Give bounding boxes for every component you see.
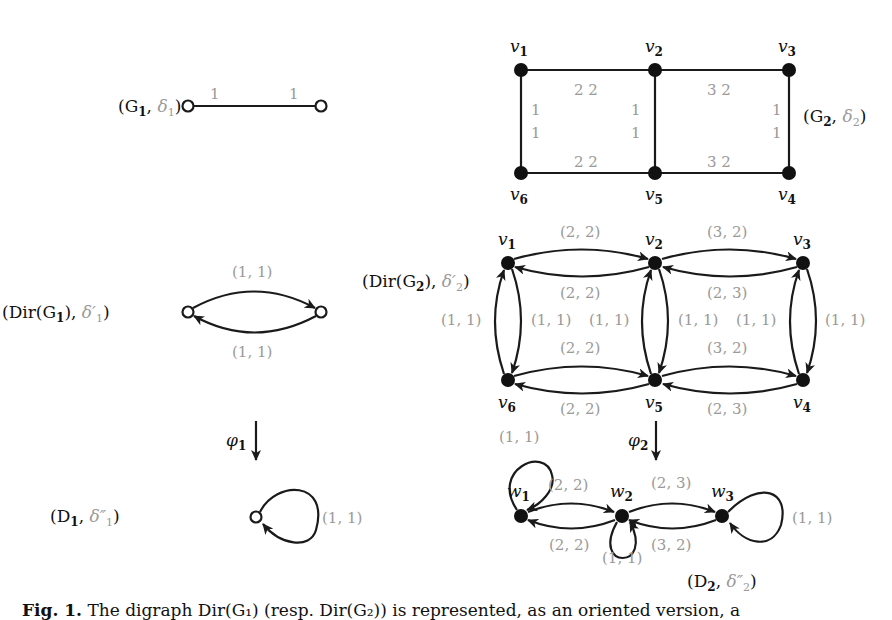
d2-label-w2: w2 xyxy=(610,481,633,504)
d2-weight-w1-w2: (2, 2) xyxy=(548,476,588,494)
dir-g2-label-v5: v5 xyxy=(645,392,663,415)
dir-g2-arc-v3-v4 xyxy=(807,269,816,373)
dir-g2-arc-v5-v6 xyxy=(515,384,649,394)
d2-vertex-w1 xyxy=(514,509,528,523)
dir-g2-arc-v6-v1 xyxy=(495,270,504,374)
g2-label-v1: v1 xyxy=(510,36,528,59)
dir-g2-weight-v5-v2: (1, 1) xyxy=(589,311,629,329)
d2-weight-w2-w3: (2, 3) xyxy=(651,474,691,492)
g2-label-v5: v5 xyxy=(645,184,663,207)
dir-g2-weight-v3-v4: (1, 1) xyxy=(825,311,865,329)
dir-g2-weight-v1-v2: (2, 2) xyxy=(560,223,600,241)
dir-g2-weight-v6-v1: (1, 1) xyxy=(441,311,481,329)
g2-weight-v2-v5-a: 1 xyxy=(631,101,641,119)
dir-g2-arc-v1-v6 xyxy=(512,269,521,373)
graph-dir-g1: (Dir(G1), δ′1) (1, 1) (1, 1) xyxy=(2,263,327,361)
g2-weight-v2-v3: 3 2 xyxy=(707,81,731,99)
dir-g2-arc-v3-v2 xyxy=(663,267,797,277)
g1-weight-left: 1 xyxy=(210,85,220,103)
dir-g2-arc-v4-v5 xyxy=(663,384,797,394)
phi2-label: φ2 xyxy=(628,430,648,453)
dir-g2-arc-v2-v5 xyxy=(659,269,668,373)
dir-g2-arc-v2-v3 xyxy=(662,250,796,260)
dir-g2-arc-v2-v1 xyxy=(515,267,649,277)
dir-g1-weight-top: (1, 1) xyxy=(232,263,272,281)
dir-g2-weight-v6-v5: (2, 2) xyxy=(560,339,600,357)
g1-weight-right: 1 xyxy=(289,85,299,103)
g2-weight-v2-v5-b: 1 xyxy=(631,124,641,142)
dir-g2-weight-v4-v5: (2, 3) xyxy=(707,400,747,418)
dir-g2-vertex-v5 xyxy=(648,373,662,387)
dir-g1-weight-bottom: (1, 1) xyxy=(232,343,272,361)
g2-weight-v1-v2: 2 2 xyxy=(574,81,598,99)
g2-weight-v1-v6-b: 1 xyxy=(531,124,541,142)
g1-vertex-right xyxy=(316,101,327,112)
d2-label: (D2, δ″2) xyxy=(687,571,757,594)
d2-vertex-w2 xyxy=(615,509,629,523)
g2-vertex-v4 xyxy=(782,166,796,180)
phi1-label: φ1 xyxy=(226,430,246,453)
dir-g2-arc-v5-v4 xyxy=(662,367,796,377)
dir-g2-weight-v2-v3: (3, 2) xyxy=(707,223,747,241)
dir-g2-arc-v5-v2 xyxy=(642,270,651,374)
caption-prefix: Fig. 1. xyxy=(22,600,82,620)
g2-label-v2: v2 xyxy=(645,36,663,59)
figure-canvas: (G1, δ1) 1 1 v1 v2 v3 v4 v5 v6 2 2 3 2 2… xyxy=(0,0,892,620)
dir-g2-vertex-v1 xyxy=(501,256,515,270)
dir-g2-arc-v6-v5 xyxy=(514,367,648,377)
dir-g2-weight-v1-v6: (1, 1) xyxy=(531,311,571,329)
d2-arc-w3-w2 xyxy=(629,520,716,529)
graph-dir-g2: (Dir(G2), δ′2) v1 v2 v3 v4 v5 v6 (2, 2) xyxy=(362,223,865,418)
dir-g1-arc-bottom xyxy=(194,316,316,333)
dir-g2-vertex-v4 xyxy=(796,373,810,387)
d2-weight-w2-loop: (1, 1) xyxy=(602,549,642,567)
dir-g1-vertex-right xyxy=(316,307,327,318)
g2-weight-v6-v5: 2 2 xyxy=(574,153,598,171)
g2-vertex-v1 xyxy=(514,63,528,77)
dir-g2-arc-v1-v2 xyxy=(514,250,648,260)
d2-weight-w2-w1: (2, 2) xyxy=(549,536,589,554)
g2-vertex-v5 xyxy=(648,166,662,180)
d2-arc-w1-w2 xyxy=(528,504,614,513)
dir-g1-arc-top xyxy=(193,292,315,309)
d1-vertex xyxy=(251,512,262,523)
dir-g2-weight-v5-v4: (3, 2) xyxy=(707,339,747,357)
d1-loop xyxy=(260,490,318,543)
d2-loop-w3 xyxy=(728,493,783,542)
dir-g2-arc-v4-v3 xyxy=(790,270,799,374)
g1-label: (G1, δ1) xyxy=(118,96,181,119)
graph-g1: (G1, δ1) 1 1 xyxy=(118,85,327,119)
g2-vertex-v6 xyxy=(514,166,528,180)
g2-label-v4: v4 xyxy=(778,184,796,207)
g2-label-v6: v6 xyxy=(510,184,528,207)
d2-arc-w2-w1 xyxy=(528,520,615,529)
g2-vertex-v2 xyxy=(648,63,662,77)
d2-label-w1: w1 xyxy=(507,481,530,504)
g1-vertex-left xyxy=(183,101,194,112)
caption-text: The digraph Dir(G₁) (resp. Dir(G₂)) is r… xyxy=(87,600,740,620)
d2-weight-w3-w2: (3, 2) xyxy=(651,536,691,554)
d2-vertex-w3 xyxy=(715,509,729,523)
dir-g2-weight-v5-v6: (2, 2) xyxy=(560,400,600,418)
g2-vertex-v3 xyxy=(782,63,796,77)
dir-g1-vertex-left xyxy=(183,307,194,318)
dir-g2-label: (Dir(G2), δ′2) xyxy=(362,271,470,294)
dir-g2-weight-v4-v3: (1, 1) xyxy=(736,311,776,329)
graph-d1: φ1 (D1, δ″1) (1, 1) xyxy=(50,421,362,543)
dir-g2-label-v2: v2 xyxy=(645,229,663,252)
d2-arc-w2-w3 xyxy=(629,504,715,513)
g2-weight-v3-v4-a: 1 xyxy=(772,101,782,119)
g2-weight-v5-v4: 3 2 xyxy=(707,153,731,171)
d1-loop-weight: (1, 1) xyxy=(322,509,362,527)
graph-g2: v1 v2 v3 v4 v5 v6 2 2 3 2 2 2 3 2 1 1 1 … xyxy=(510,36,866,207)
g2-label-v3: v3 xyxy=(778,36,796,59)
graph-d2: φ2 w1 w2 w3 (1, 1) (2, 2) (2, 2) (1, 1) … xyxy=(499,421,832,594)
dir-g2-label-v3: v3 xyxy=(793,229,811,252)
d2-weight-w1-loop: (1, 1) xyxy=(499,428,539,446)
g2-weight-v3-v4-b: 1 xyxy=(772,124,782,142)
dir-g2-label-v4: v4 xyxy=(793,392,811,415)
dir-g2-vertex-v6 xyxy=(501,373,515,387)
dir-g2-vertex-v3 xyxy=(796,256,810,270)
g2-label: (G2, δ2) xyxy=(803,106,866,129)
d2-label-w3: w3 xyxy=(711,481,734,504)
